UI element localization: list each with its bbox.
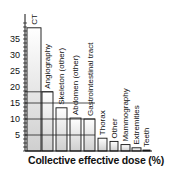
bar-angiography: [42, 92, 53, 151]
bar-label: Gastrointestinal tract: [86, 42, 95, 116]
y-tick-label: 5: [15, 130, 20, 140]
bar-label: Teeth: [143, 127, 152, 147]
y-tick-label: 35: [10, 34, 20, 44]
bar-label: Other: [110, 118, 119, 138]
bar-skeleton-other-: [56, 108, 67, 151]
y-tick-label: 25: [10, 66, 20, 76]
bar-label: Abdomen (other): [72, 55, 81, 115]
x-axis-label: Collective effective dose (%): [28, 154, 164, 166]
y-tick-label: 20: [10, 82, 20, 92]
bar-ct: [27, 28, 41, 151]
y-tick-label: 15: [10, 98, 20, 108]
bar-mammography: [121, 145, 130, 151]
bar-label: CT: [30, 14, 39, 25]
bar-abdomen-other-: [70, 118, 81, 151]
bar-other: [110, 141, 118, 151]
bar-label: Angiography: [44, 44, 53, 89]
y-tick-label: 10: [10, 114, 20, 124]
y-tick-label: 30: [10, 50, 20, 60]
bar-label: Mammography: [122, 88, 131, 141]
bar-label: Extremities: [133, 105, 142, 145]
bar-chart: CTAngiographySkeleton (other)Abdomen (ot…: [0, 0, 189, 176]
bar-label: Thorax: [99, 110, 108, 135]
bar-thorax: [98, 138, 107, 151]
bar-label: Skeleton (other): [58, 48, 67, 105]
